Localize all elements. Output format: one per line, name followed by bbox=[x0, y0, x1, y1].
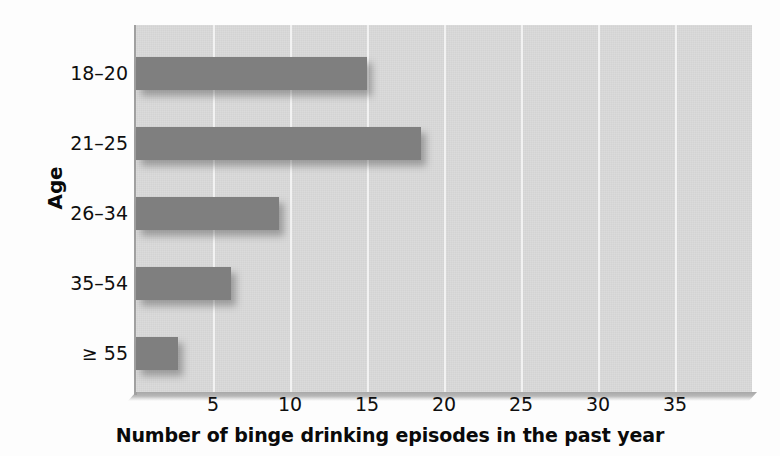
y-tick-label: 35–54 bbox=[10, 274, 128, 293]
gridline-25 bbox=[521, 25, 523, 392]
x-tick-label: 20 bbox=[414, 394, 474, 415]
x-tick-label: 5 bbox=[183, 394, 243, 415]
y-tick-label: 26–34 bbox=[10, 204, 128, 223]
x-tick-label: 10 bbox=[260, 394, 320, 415]
gridline-15 bbox=[367, 25, 369, 392]
x-tick-label: 35 bbox=[645, 394, 705, 415]
y-tick-label: 21–25 bbox=[10, 134, 128, 153]
bar-26-34 bbox=[136, 197, 279, 230]
gridline-35 bbox=[675, 25, 677, 392]
x-axis-tick-labels: 5 10 15 20 25 30 35 bbox=[0, 394, 780, 420]
y-tick-label: 18–20 bbox=[10, 64, 128, 83]
plot-area bbox=[136, 25, 752, 392]
y-axis-tick-labels: 18–20 21–25 26–34 35–54 ≥ 55 bbox=[0, 0, 128, 456]
x-tick-label: 25 bbox=[491, 394, 551, 415]
x-tick-label: 15 bbox=[337, 394, 397, 415]
x-tick-label: 30 bbox=[568, 394, 628, 415]
bar-55-plus bbox=[136, 337, 178, 370]
gridline-20 bbox=[444, 25, 446, 392]
gridline-30 bbox=[598, 25, 600, 392]
bar-18-20 bbox=[136, 57, 367, 90]
y-tick-label: ≥ 55 bbox=[10, 344, 128, 363]
x-axis-title: Number of binge drinking episodes in the… bbox=[0, 424, 780, 446]
bar-21-25 bbox=[136, 127, 421, 160]
bar-chart: Age 18–20 21–25 26–34 35–54 ≥ 55 5 10 15… bbox=[0, 0, 780, 456]
bar-35-54 bbox=[136, 267, 231, 300]
